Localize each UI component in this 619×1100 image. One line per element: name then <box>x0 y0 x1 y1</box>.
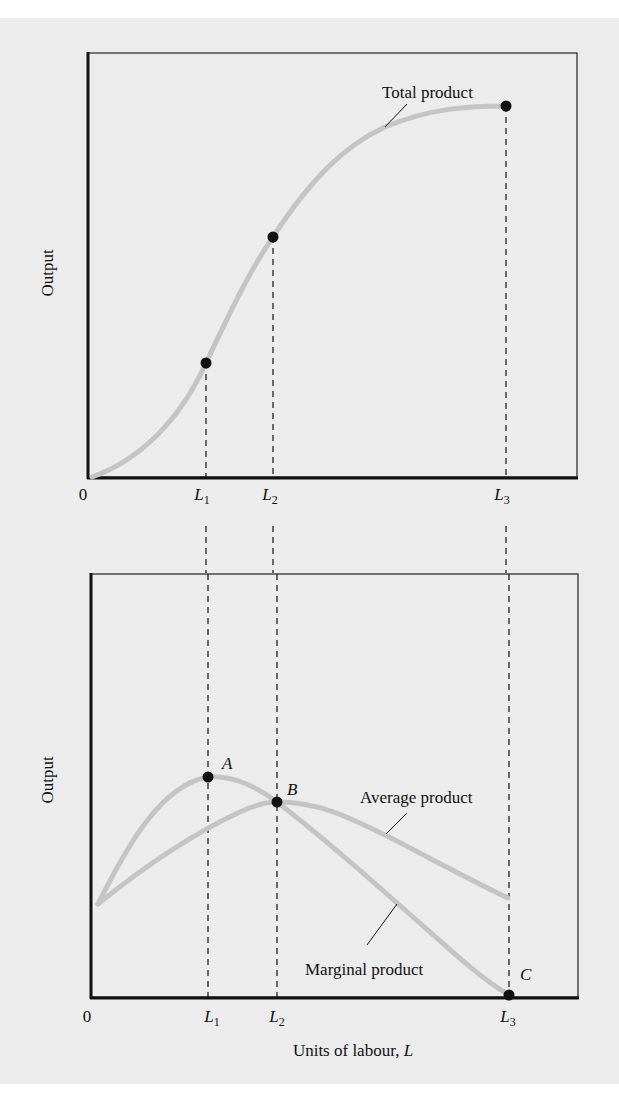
point-c <box>504 990 515 1001</box>
marginal-average-product-chart: A B C Average product Marginal product O… <box>38 573 579 1060</box>
marginal-product-curve <box>98 777 509 995</box>
ap-leader-line <box>386 813 407 834</box>
bottom-y-axis-label: Output <box>38 756 57 804</box>
bottom-chart-frame <box>91 574 578 997</box>
top-tick-l2: L2 <box>261 485 277 507</box>
tp-point-l2 <box>268 232 279 243</box>
top-chart-frame <box>88 53 577 477</box>
point-c-label: C <box>520 965 532 984</box>
average-product-label: Average product <box>360 788 473 807</box>
top-origin-label: 0 <box>79 485 88 504</box>
production-charts: Total product Output 0 L1 L2 L3 A B C Av… <box>0 0 619 1100</box>
point-a-label: A <box>221 754 233 773</box>
mp-leader-line <box>367 904 397 945</box>
point-a <box>203 772 214 783</box>
bottom-tick-l2: L2 <box>268 1007 284 1029</box>
point-b <box>272 797 283 808</box>
top-y-axis-label: Output <box>38 249 57 297</box>
marginal-product-label: Marginal product <box>305 960 423 979</box>
point-b-label: B <box>287 780 298 799</box>
total-product-label: Total product <box>382 83 473 102</box>
bottom-origin-label: 0 <box>83 1007 92 1026</box>
bottom-tick-l1: L1 <box>203 1007 219 1029</box>
average-product-curve <box>98 802 508 904</box>
tp-point-l3 <box>501 101 512 112</box>
bottom-x-axis-label: Units of labour, L <box>293 1041 413 1060</box>
top-tick-l3: L3 <box>493 485 509 507</box>
bottom-tick-l3: L3 <box>499 1007 515 1029</box>
total-product-curve <box>92 106 506 477</box>
total-product-chart: Total product Output 0 L1 L2 L3 <box>38 52 578 507</box>
tp-point-l1 <box>201 358 212 369</box>
top-tick-l1: L1 <box>193 485 209 507</box>
